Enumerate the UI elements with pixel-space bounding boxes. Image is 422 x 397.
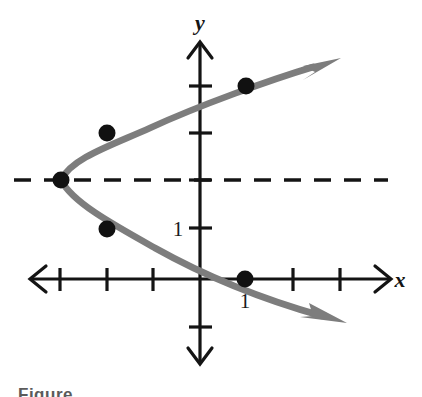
y-tick-label-1: 1 [173, 217, 184, 241]
figure-caption: Figure [18, 385, 73, 397]
parabola-curve-group [61, 58, 347, 323]
point-vertex [53, 172, 70, 189]
y-axis-label: y [192, 10, 205, 35]
x-tick-label-1: 1 [240, 289, 251, 313]
point-upper-right [238, 78, 255, 95]
point-x-intercept [237, 271, 254, 288]
y-axis-group [188, 42, 212, 364]
data-points-group [53, 78, 255, 288]
x-axis-label: x [394, 267, 406, 292]
point-upper-left [99, 125, 116, 142]
point-lower-left [99, 221, 116, 238]
